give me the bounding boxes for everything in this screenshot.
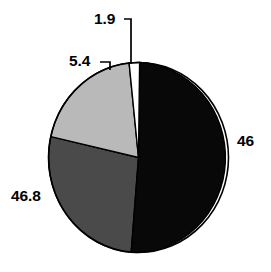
slice-value-label-white: 1.9	[94, 11, 115, 27]
pie-chart-canvas	[0, 0, 271, 272]
leader-line-1-9	[124, 19, 131, 64]
slice-value-label-black: 46	[237, 133, 254, 149]
slice-value-label-dark-gray: 46.8	[11, 188, 41, 204]
pie-slice-black[interactable]	[131, 63, 225, 253]
pie-chart-figure: 46 46.8 5.4 1.9	[0, 0, 271, 272]
slice-value-label-light-gray: 5.4	[69, 53, 90, 69]
